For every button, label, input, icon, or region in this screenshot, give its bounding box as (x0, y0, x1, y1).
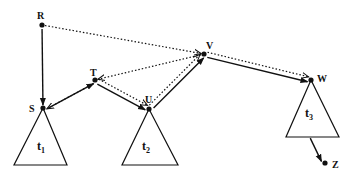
node-label-S: S (29, 103, 35, 114)
node-label-U: U (145, 94, 152, 105)
edge-T-U (97, 84, 145, 110)
labels: RSTUVWZ (29, 10, 339, 170)
edge-U-V (154, 58, 204, 108)
node-S (40, 105, 45, 110)
solid-edges (42, 29, 321, 161)
node-label-V: V (206, 40, 214, 51)
dotted-edges (45, 26, 309, 109)
subtree-label-t2: t2 (142, 139, 150, 155)
node-W (308, 77, 313, 82)
dotted-edge-V-W (208, 52, 309, 77)
node-label-T: T (90, 67, 97, 78)
dotted-edge-U-V (149, 54, 200, 105)
edge-V-W (207, 57, 307, 81)
dotted-edge-R-V (45, 26, 201, 54)
dotted-edge-T-U (99, 79, 148, 105)
node-label-R: R (37, 10, 45, 21)
subtrees: t1t2t3 (14, 80, 339, 165)
node-Z (322, 160, 327, 165)
subtree-t1 (14, 108, 67, 165)
subtree-label-t3: t3 (305, 106, 313, 122)
edge-R-S (42, 29, 43, 105)
node-U (146, 106, 151, 111)
node-T (92, 77, 97, 82)
nodes (39, 22, 327, 165)
node-label-W: W (317, 73, 327, 84)
tree-diagram: t1t2t3 RSTUVWZ (0, 0, 351, 182)
subtree-t3 (286, 80, 339, 137)
subtree-label-t1: t1 (37, 139, 45, 155)
subtree-t2 (122, 109, 178, 165)
node-R (39, 22, 44, 27)
diagram-svg: t1t2t3 RSTUVWZ (0, 0, 351, 182)
edge-t3-Z (310, 138, 321, 161)
node-label-Z: Z (332, 159, 339, 170)
node-V (201, 51, 206, 56)
